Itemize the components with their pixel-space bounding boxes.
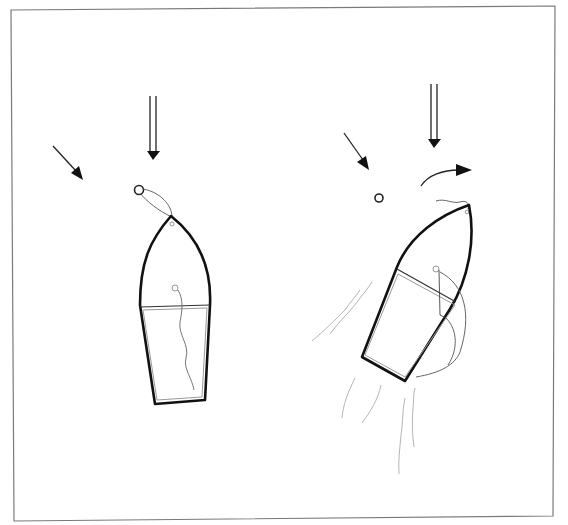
bow-fitting (170, 222, 174, 226)
right-panel (312, 84, 472, 474)
thwart-line (397, 269, 456, 302)
mast-ring (433, 266, 439, 272)
mooring-buoy (135, 186, 144, 195)
thwart-line (140, 305, 210, 307)
mooring-line (141, 189, 172, 217)
current-arrow-left (147, 96, 160, 160)
sheet-line-inner (446, 318, 455, 365)
wind-arrow-left (53, 146, 83, 180)
wake-line (399, 398, 405, 474)
wind-arrow-head (357, 156, 369, 170)
current-arrow-head (428, 139, 441, 148)
wake-line (412, 388, 415, 447)
diagram-canvas (0, 0, 568, 525)
wake-line (312, 290, 360, 341)
turn-arrow-head (456, 164, 472, 176)
diagram-svg (0, 0, 568, 525)
wind-arrow-right (344, 133, 369, 170)
turn-arrow (421, 164, 472, 186)
wake-line (330, 282, 372, 334)
turn-arrow-shaft (421, 170, 459, 186)
mooring-buoy (375, 194, 383, 202)
current-arrow-right (428, 84, 441, 148)
bow-fitting (465, 210, 469, 214)
frame-border (11, 6, 555, 521)
wake-line (342, 378, 355, 418)
mast-ring (172, 285, 178, 291)
wind-arrow-shaft (344, 133, 363, 160)
wind-arrow-shaft (53, 146, 76, 171)
current-arrow-head (147, 151, 160, 160)
cockpit-outline (365, 274, 455, 377)
left-panel (53, 96, 210, 404)
boat-hull-right (362, 205, 472, 381)
wake-line (362, 385, 381, 423)
